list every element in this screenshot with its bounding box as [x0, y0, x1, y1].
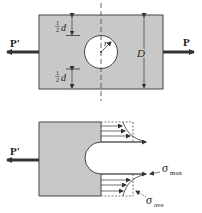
- top-plate-figure: P' P 1 2 d 1 2 d r D: [7, 3, 194, 101]
- half-d-top-frac-num: 1: [56, 20, 59, 26]
- sigma-max-symbol: σ: [162, 161, 169, 175]
- width-D-label: D: [136, 47, 145, 59]
- sigma-ave-subscript: ave: [154, 201, 164, 209]
- half-plate: [39, 122, 101, 196]
- stress-curve-bottom: [123, 174, 146, 196]
- stress-curve-top: [123, 122, 146, 142]
- bottom-free-body-figure: P' σ max σ ave: [7, 122, 183, 209]
- sigma-max-subscript: max: [170, 169, 183, 177]
- radius-label: r: [104, 38, 108, 48]
- half-d-bottom-frac-den: 2: [56, 77, 59, 83]
- half-d-bottom-frac-num: 1: [56, 70, 59, 76]
- load-right-label: P: [183, 36, 190, 48]
- load-left-label-bottom: P': [10, 145, 20, 157]
- hole-center-dot: [100, 51, 102, 53]
- sigma-ave-symbol: σ: [146, 193, 153, 207]
- sigma-max-leader: [150, 172, 160, 174]
- stress-concentration-diagram: P' P 1 2 d 1 2 d r D: [0, 0, 202, 213]
- sigma-ave-leader: [136, 191, 146, 197]
- half-d-top-frac-den: 2: [56, 27, 59, 33]
- load-left-label: P': [10, 37, 20, 49]
